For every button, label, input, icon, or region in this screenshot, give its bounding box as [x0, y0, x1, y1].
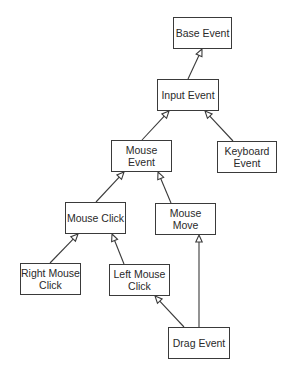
edge-drag_event-to-left_mouse_click	[160, 301, 184, 327]
inheritance-edges	[0, 0, 292, 378]
node-base-event: Base Event	[173, 17, 232, 49]
node-keyboard-event: Keyboard Event	[217, 141, 277, 173]
edge-mouse_click-to-mouse_event	[96, 177, 119, 202]
node-right-mouse-click: Right Mouse Click	[20, 263, 81, 295]
class-hierarchy-diagram: Base Event Input Event Mouse Event Keybo…	[0, 0, 292, 378]
edge-mouse_event-to-input_event	[142, 116, 164, 140]
node-drag-event: Drag Event	[168, 327, 230, 359]
edge-mouse_move-to-mouse_event	[161, 178, 171, 203]
node-left-mouse-click: Left Mouse Click	[109, 264, 170, 296]
edge-left_mouse_click-to-mouse_click	[115, 240, 124, 264]
hollow-arrowhead-icon	[196, 49, 202, 57]
edge-right_mouse_click-to-mouse_click	[50, 239, 73, 263]
hollow-arrowhead-icon	[112, 234, 118, 242]
hollow-arrowhead-icon	[158, 172, 164, 180]
node-mouse-move: Mouse Move	[155, 203, 216, 235]
edge-input_event-to-base_event	[188, 55, 199, 79]
node-mouse-click: Mouse Click	[65, 202, 126, 234]
edge-keyboard_event-to-input_event	[210, 116, 233, 141]
node-mouse-event: Mouse Event	[111, 140, 172, 172]
hollow-arrowhead-icon	[196, 235, 202, 242]
node-input-event: Input Event	[157, 79, 219, 111]
